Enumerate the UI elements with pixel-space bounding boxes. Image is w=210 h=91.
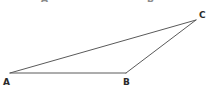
edge-ac-line bbox=[10, 20, 196, 73]
vertex-label-a: A bbox=[3, 78, 10, 87]
triangle-diagram: A B C A B bbox=[0, 0, 210, 91]
clipped-label-a-top: A bbox=[41, 0, 48, 4]
triangle-shape bbox=[0, 0, 210, 91]
vertex-label-b: B bbox=[123, 78, 130, 87]
vertex-label-c: C bbox=[199, 11, 206, 20]
clipped-label-b-top: B bbox=[147, 0, 154, 4]
edge-bc-line bbox=[126, 20, 196, 73]
